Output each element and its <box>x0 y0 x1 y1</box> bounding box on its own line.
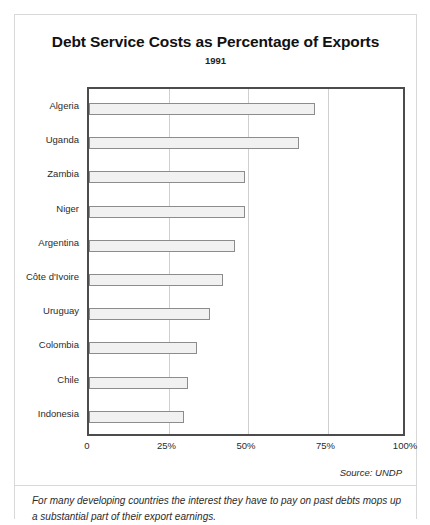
bar <box>89 308 210 320</box>
figure-caption: For many developing countries the intere… <box>32 493 404 525</box>
source-note: Source: UNDP <box>340 467 402 478</box>
bar-row: Algeria <box>89 92 403 126</box>
bar-row: Uganda <box>89 126 403 160</box>
category-label: Uruguay <box>43 305 79 317</box>
bar <box>89 171 245 183</box>
footer-divider <box>15 485 416 486</box>
plot-area: AlgeriaUgandaZambiaNigerArgentinaCôte d'… <box>87 87 405 436</box>
bar <box>89 137 299 149</box>
bar <box>89 206 245 218</box>
category-label: Niger <box>56 203 79 215</box>
bar-row: Zambia <box>89 160 403 194</box>
bar <box>89 274 223 286</box>
bar <box>89 377 188 389</box>
category-label: Côte d'Ivoire <box>26 271 79 283</box>
bar-row: Chile <box>89 366 403 400</box>
x-tick-label: 50% <box>236 440 255 451</box>
x-axis-tick-labels: 025%50%75%100% <box>87 440 405 454</box>
bar <box>89 342 197 354</box>
category-label: Zambia <box>47 168 79 180</box>
bar-row: Colombia <box>89 331 403 365</box>
category-label: Colombia <box>39 339 79 351</box>
bar-row: Niger <box>89 195 403 229</box>
bar <box>89 411 184 423</box>
bar-row: Indonesia <box>89 400 403 434</box>
x-tick-label: 75% <box>316 440 335 451</box>
bar <box>89 240 235 252</box>
x-tick-label: 0 <box>84 440 89 451</box>
bar <box>89 103 315 115</box>
bar-row: Côte d'Ivoire <box>89 263 403 297</box>
category-label: Algeria <box>49 100 79 112</box>
category-label: Chile <box>57 374 79 386</box>
category-label: Indonesia <box>38 408 79 420</box>
figure-card: Debt Service Costs as Percentage of Expo… <box>14 14 417 519</box>
bar-row: Argentina <box>89 229 403 263</box>
x-tick-label: 100% <box>393 440 417 451</box>
chart-title: Debt Service Costs as Percentage of Expo… <box>15 33 416 51</box>
x-tick-label: 25% <box>157 440 176 451</box>
bar-row: Uruguay <box>89 297 403 331</box>
chart-subtitle: 1991 <box>15 55 416 66</box>
category-label: Argentina <box>38 237 79 249</box>
category-label: Uganda <box>46 134 79 146</box>
